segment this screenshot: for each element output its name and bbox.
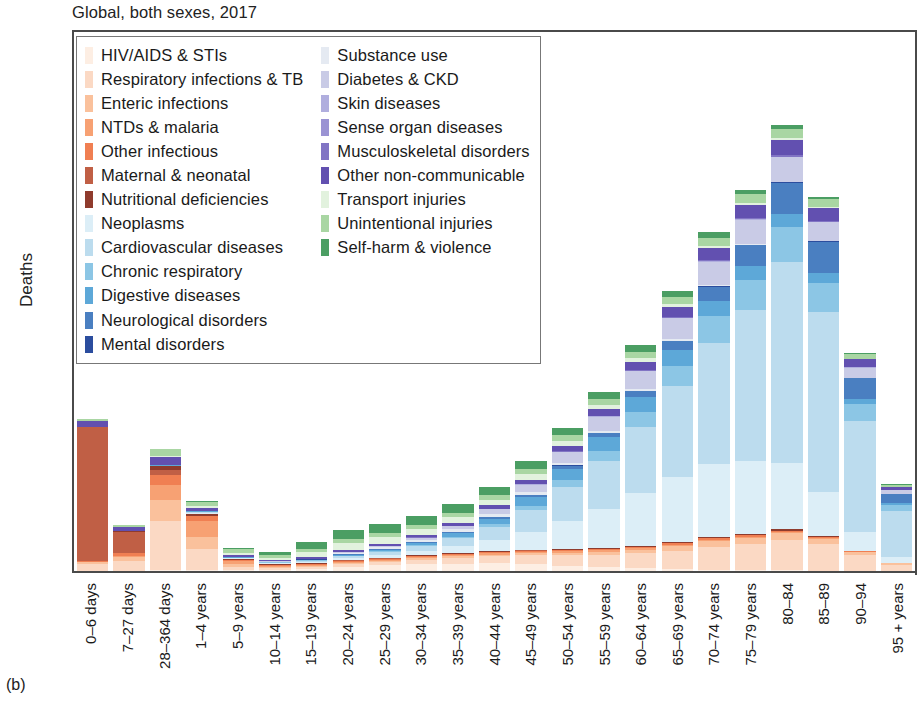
bar-segment	[333, 530, 364, 539]
chart-title: Global, both sexes, 2017	[72, 3, 257, 22]
x-tick-slot: 90–94	[842, 575, 879, 705]
stacked-bar[interactable]	[808, 197, 839, 571]
legend-item-label: Neoplasms	[101, 214, 184, 233]
legend-item[interactable]: Sense organ diseases	[321, 115, 529, 139]
bar-segment	[625, 397, 656, 412]
legend-item[interactable]: HIV/AIDS & STIs	[85, 43, 303, 67]
bar-segment	[515, 564, 546, 571]
bar-segment	[552, 452, 583, 463]
bar-segment	[698, 464, 729, 538]
bar-segment	[844, 421, 875, 532]
bar-segment	[479, 556, 510, 563]
bar-segment	[625, 427, 656, 494]
stacked-bar[interactable]	[479, 487, 510, 571]
legend-item[interactable]: Transport injuries	[321, 188, 529, 212]
stacked-bar[interactable]	[552, 428, 583, 571]
stacked-bar[interactable]	[771, 125, 802, 571]
bar-segment	[552, 566, 583, 571]
legend-item[interactable]: Neurological disorders	[85, 308, 303, 332]
legend-item[interactable]: Neoplasms	[85, 212, 303, 236]
bar-slot	[805, 32, 842, 571]
legend-item-label: Unintentional injuries	[337, 214, 492, 233]
stacked-bar[interactable]	[442, 504, 473, 571]
legend-swatch-icon	[321, 191, 329, 208]
bar-segment	[698, 248, 729, 260]
stacked-bar[interactable]	[735, 190, 766, 571]
legend-item[interactable]: NTDs & malaria	[85, 115, 303, 139]
stacked-bar[interactable]	[406, 516, 437, 571]
stacked-bar[interactable]	[296, 542, 327, 571]
legend-item-label: Enteric infections	[101, 94, 228, 113]
x-tick-label: 0–6 days	[82, 583, 99, 644]
x-tick-slot: 80–84	[768, 575, 805, 705]
bar-segment	[625, 493, 656, 546]
legend-item-label: Mental disorders	[101, 335, 225, 354]
bar-segment	[588, 555, 619, 567]
legend-item[interactable]: Respiratory infections & TB	[85, 67, 303, 91]
stacked-bar[interactable]	[333, 530, 364, 571]
legend-swatch-icon	[85, 312, 93, 329]
legend-item[interactable]: Chronic respiratory	[85, 260, 303, 284]
stacked-bar[interactable]	[588, 392, 619, 571]
legend-item[interactable]: Enteric infections	[85, 91, 303, 115]
bar-segment	[698, 316, 729, 342]
bar-segment	[844, 378, 875, 398]
bar-segment	[150, 521, 181, 570]
legend-swatch-icon	[85, 95, 93, 112]
bar-segment	[442, 504, 473, 513]
stacked-bar[interactable]	[259, 552, 290, 571]
legend-item[interactable]: Other non-communicable	[321, 163, 529, 187]
bar-segment	[808, 273, 839, 283]
legend-item[interactable]: Unintentional injuries	[321, 212, 529, 236]
stacked-bar[interactable]	[698, 232, 729, 571]
stacked-bar[interactable]	[369, 524, 400, 571]
bar-segment	[552, 480, 583, 487]
legend-item[interactable]: Maternal & neonatal	[85, 163, 303, 187]
stacked-bar[interactable]	[113, 525, 144, 571]
plot-right-border	[915, 30, 917, 575]
bar-segment	[662, 477, 693, 542]
bar-segment	[662, 307, 693, 317]
legend-item[interactable]: Self-harm & violence	[321, 236, 529, 260]
stacked-bar[interactable]	[625, 345, 656, 571]
bar-segment	[771, 570, 802, 571]
stacked-bar[interactable]	[186, 501, 217, 571]
stacked-bar[interactable]	[150, 449, 181, 571]
bar-segment	[333, 567, 364, 571]
stacked-bar[interactable]	[77, 419, 108, 571]
legend-item[interactable]: Digestive diseases	[85, 284, 303, 308]
bar-slot	[622, 32, 659, 571]
stacked-bar[interactable]	[881, 484, 912, 571]
bar-segment	[735, 544, 766, 570]
bar-segment	[406, 564, 437, 571]
legend-item[interactable]: Musculoskeletal disorders	[321, 139, 529, 163]
bar-segment	[698, 570, 729, 571]
stacked-bar[interactable]	[844, 353, 875, 571]
legend-column-left: HIV/AIDS & STIsRespiratory infections & …	[85, 43, 303, 356]
stacked-bar[interactable]	[662, 291, 693, 571]
bar-segment	[515, 461, 546, 469]
legend-item[interactable]: Other infectious	[85, 139, 303, 163]
bar-segment	[662, 551, 693, 570]
x-tick-label: 20–24 years	[338, 583, 355, 666]
bar-segment	[844, 555, 875, 571]
legend-item[interactable]: Substance use	[321, 43, 529, 67]
bar-segment	[479, 563, 510, 571]
legend-item[interactable]: Skin diseases	[321, 91, 529, 115]
legend-swatch-icon	[321, 239, 329, 256]
legend-item[interactable]: Mental disorders	[85, 332, 303, 356]
bar-segment	[698, 287, 729, 301]
bar-slot	[549, 32, 586, 571]
bar-segment	[808, 492, 839, 536]
legend-item[interactable]: Cardiovascular diseases	[85, 236, 303, 260]
bar-segment	[588, 451, 619, 461]
legend-item[interactable]: Nutritional deficiencies	[85, 188, 303, 212]
stacked-bar[interactable]	[223, 548, 254, 571]
bar-segment	[186, 570, 217, 571]
bar-segment	[735, 245, 766, 266]
stacked-bar[interactable]	[515, 461, 546, 571]
bar-segment	[333, 543, 364, 550]
x-tick-slot: 5–9 years	[219, 575, 256, 705]
legend-item[interactable]: Diabetes & CKD	[321, 67, 529, 91]
x-tick-label: 85–89	[815, 583, 832, 625]
